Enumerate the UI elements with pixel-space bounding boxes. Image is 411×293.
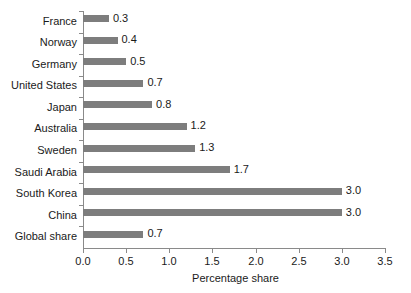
bar	[83, 145, 195, 152]
bar	[83, 166, 230, 173]
bar-row: Norway0.4	[0, 33, 411, 55]
bar-row: United States0.7	[0, 76, 411, 98]
x-axis-tick	[126, 249, 127, 253]
bar-value-label: 0.4	[122, 33, 137, 46]
bar-value-label: 3.0	[346, 206, 361, 219]
bar-value-label: 0.5	[130, 55, 145, 68]
bar	[83, 231, 143, 238]
bar-row: Australia1.2	[0, 119, 411, 141]
bar	[83, 209, 342, 216]
bar	[83, 101, 152, 108]
bar	[83, 188, 342, 195]
x-axis-tick-label: 1.5	[204, 255, 219, 268]
category-label: France	[0, 15, 77, 28]
category-label: Japan	[0, 101, 77, 114]
category-label: United States	[0, 79, 77, 92]
bar	[83, 123, 187, 130]
bar-row: Japan0.8	[0, 97, 411, 119]
bar	[83, 80, 143, 87]
x-axis-tick	[342, 249, 343, 253]
x-axis-tick-label: 0.5	[118, 255, 133, 268]
x-axis-title: Percentage share	[0, 272, 411, 285]
bar-row: Global share0.7	[0, 226, 411, 248]
x-axis-tick-label: 1.0	[161, 255, 176, 268]
bar-value-label: 0.8	[156, 98, 171, 111]
category-label: Global share	[0, 230, 77, 243]
category-label: Norway	[0, 36, 77, 49]
x-axis-tick-label: 3.5	[377, 255, 392, 268]
bar-row: Saudi Arabia1.7	[0, 162, 411, 184]
bar-value-label: 0.3	[113, 12, 128, 25]
x-axis-tick-label: 2.0	[248, 255, 263, 268]
bar-row: France0.3	[0, 11, 411, 33]
x-axis-tick-label: 2.5	[291, 255, 306, 268]
bar-value-label: 1.2	[191, 119, 206, 132]
x-axis-tick	[385, 249, 386, 253]
bar-chart: France0.3Norway0.4Germany0.5United State…	[0, 0, 411, 293]
bar-value-label: 3.0	[346, 184, 361, 197]
category-label: Australia	[0, 122, 77, 135]
bar-value-label: 1.3	[199, 141, 214, 154]
category-label: South Korea	[0, 187, 77, 200]
bar-value-label: 0.7	[147, 227, 162, 240]
bar	[83, 15, 109, 22]
x-axis-tick	[256, 249, 257, 253]
bar	[83, 58, 126, 65]
category-label: China	[0, 209, 77, 222]
bar-value-label: 1.7	[234, 163, 249, 176]
x-axis-tick	[169, 249, 170, 253]
bar-row: Germany0.5	[0, 54, 411, 76]
category-label: Saudi Arabia	[0, 166, 77, 179]
bar-row: China3.0	[0, 205, 411, 227]
bar-value-label: 0.7	[147, 76, 162, 89]
x-axis-title-label: Percentage share	[192, 272, 279, 284]
category-label: Germany	[0, 58, 77, 71]
x-axis-line	[83, 248, 386, 249]
x-axis-tick	[212, 249, 213, 253]
bar	[83, 37, 118, 44]
bar-row: Sweden1.3	[0, 140, 411, 162]
x-axis-tick	[299, 249, 300, 253]
x-axis-tick	[83, 249, 84, 253]
x-axis-tick-label: 3.0	[334, 255, 349, 268]
category-label: Sweden	[0, 144, 77, 157]
x-axis-tick-label: 0.0	[75, 255, 90, 268]
bar-row: South Korea3.0	[0, 183, 411, 205]
